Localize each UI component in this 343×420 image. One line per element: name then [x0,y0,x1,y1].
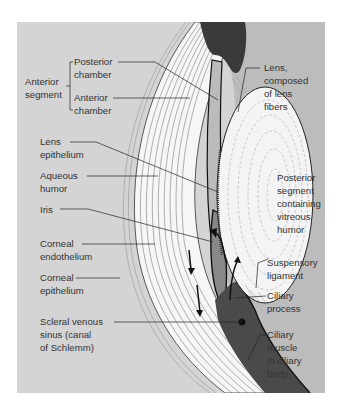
label-corneal-endothelium: Corneal endothelium [40,237,92,263]
label-lens-epithelium: Lens epithelium [40,135,84,161]
label-posterior-chamber: Posterior chamber [74,55,112,81]
label-suspensory-ligament: Suspensory ligament [267,256,318,282]
label-iris: Iris [40,203,53,216]
label-scleral-venous-sinus: Scleral venous sinus (canal of Schlemm) [40,315,103,354]
label-posterior-segment: Posterior segment containing vitreous hu… [277,171,321,236]
label-anterior-chamber: Anterior chamber [74,91,111,117]
label-anterior-segment: Anterior segment [25,75,62,101]
label-ciliary-muscle: Ciliary muscle in ciliary body [267,328,302,380]
eye-anatomy-diagram: Anterior segment Posterior chamber Anter… [0,0,343,420]
label-corneal-epithelium: Corneal epithelium [40,271,84,297]
label-ciliary-process: Ciliary process [267,289,301,315]
label-aqueous-humor: Aqueous humor [40,169,78,195]
label-lens: Lens, composed of lens fibers [264,61,308,113]
